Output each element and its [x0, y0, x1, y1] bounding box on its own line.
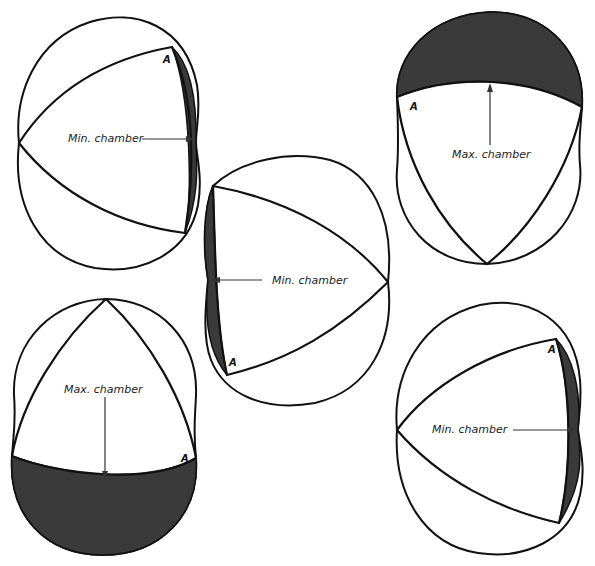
panel-top-right: A Max. chamber	[397, 12, 582, 264]
apex-label: A	[228, 357, 237, 368]
panel-bottom-left: A Max. chamber	[12, 299, 197, 555]
chamber-label: Max. chamber	[64, 383, 144, 396]
apex-label: A	[409, 101, 418, 112]
panel-top-left: A Min. chamber	[18, 17, 200, 269]
chamber-label: Max. chamber	[452, 148, 532, 161]
chamber-label: Min. chamber	[272, 274, 349, 287]
panel-center: A Min. chamber	[205, 156, 389, 405]
apex-label: A	[547, 344, 556, 355]
apex-label: A	[180, 453, 189, 464]
apex-label: A	[162, 54, 171, 65]
chamber-label: Min. chamber	[432, 423, 509, 436]
rotary-engine-diagram: A Min. chamber A Max. chamber A Min. cha…	[0, 0, 595, 566]
chamber-label: Min. chamber	[68, 132, 145, 145]
panel-bottom-right: A Min. chamber	[396, 303, 582, 555]
